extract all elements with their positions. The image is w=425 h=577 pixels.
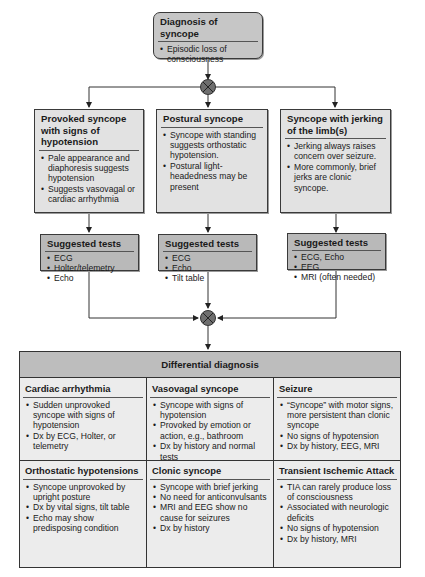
bullet-item: Dx by vital signs, tilt table: [26, 502, 142, 512]
bullet-item: ECG: [47, 253, 134, 263]
dx-cell-clonic-syncope: Clonic syncope Syncope with brief jerkin…: [147, 461, 273, 567]
bullet-item: Syncope with signs of hypotension: [153, 400, 269, 421]
box-title: Syncope with jerking of the limb(s): [281, 110, 390, 138]
box-title: Postural syncope: [157, 110, 267, 127]
cell-title: Transient Ischemic Attack: [274, 461, 400, 479]
bullet-list: Syncope with brief jerking No need for a…: [147, 480, 273, 536]
bullet-item: Holter/telemetry: [47, 263, 134, 273]
bullet-list: Episodic loss of consciousness: [154, 42, 262, 67]
bullet-item: No need for anticonvulsants: [153, 492, 269, 502]
bullet-item: Sudden unprovoked syncope with signs of …: [26, 400, 142, 431]
bullet-item: Postural light-headedness may be present: [163, 161, 263, 192]
postural-syncope-box: Postural syncope Syncope with standing s…: [156, 109, 268, 213]
bullet-item: ECG: [165, 253, 252, 263]
bullet-item: Dx by history, EEG, MRI: [280, 441, 396, 451]
bullet-item: ECG, Echo: [294, 252, 381, 262]
diagnosis-of-syncope-box: Diagnosis of syncope Episodic loss of co…: [153, 12, 263, 59]
bullet-list: Syncope unprovoked by upright posture Dx…: [20, 480, 146, 536]
bullet-list: TIA can rarely produce loss of conscious…: [274, 480, 400, 546]
cell-title: Seizure: [274, 379, 400, 397]
bullet-item: EEG: [294, 262, 381, 272]
box-title: Diagnosis of syncope: [154, 13, 262, 41]
box-title: Provoked syncope with signs of hypotensi…: [35, 110, 143, 150]
differential-diagnosis-panel: Differential diagnosis Cardiac arrhythmi…: [19, 351, 401, 568]
bullet-list: “Syncope” with motor signs, more persist…: [274, 398, 400, 454]
syncope-with-jerking-box: Syncope with jerking of the limb(s) Jerk…: [280, 109, 391, 213]
bullet-item: Tilt table: [165, 273, 252, 283]
dx-cell-orthostatic-hypotensions: Orthostatic hypotensions Syncope unprovo…: [20, 461, 146, 567]
cell-title: Cardiac arrhythmia: [20, 379, 146, 397]
suggested-tests-box-1: Suggested tests ECG Holter/telemetry Ech…: [40, 234, 139, 271]
bullet-item: TIA can rarely produce loss of conscious…: [280, 482, 396, 503]
bullet-item: Syncope unprovoked by upright posture: [26, 482, 142, 503]
junction-circle-icon: [200, 310, 216, 326]
bullet-item: Associated with neurologic deficits: [280, 502, 396, 523]
cell-title: Clonic syncope: [147, 461, 273, 479]
dx-cell-vasovagal-syncope: Vasovagal syncope Syncope with signs of …: [147, 379, 273, 460]
bullet-list: Pale appearance and diaphoresis suggests…: [35, 151, 143, 207]
bullet-item: Episodic loss of consciousness: [160, 44, 258, 65]
bullet-list: ECG Echo Tilt table: [159, 252, 256, 286]
bullet-item: Pale appearance and diaphoresis suggests…: [41, 153, 139, 184]
bullet-item: No signs of hypotension: [280, 431, 396, 441]
bullet-item: More commonly, brief jerks are clonic sy…: [287, 162, 386, 193]
bullet-list: Sudden unprovoked syncope with signs of …: [20, 398, 146, 454]
bullet-list: Jerking always raises concern over seizu…: [281, 139, 390, 195]
box-title: Suggested tests: [159, 235, 256, 251]
cell-title: Vasovagal syncope: [147, 379, 273, 397]
bullet-item: No signs of hypotension: [280, 523, 396, 533]
bullet-item: Dx by history and normal tests: [153, 441, 269, 462]
differential-title: Differential diagnosis: [161, 359, 259, 370]
suggested-tests-box-3: Suggested tests ECG, Echo EEG MRI (often…: [287, 233, 386, 270]
bullet-item: Jerking always raises concern over seizu…: [287, 141, 386, 162]
bullet-item: Dx by history: [153, 523, 269, 533]
box-title: Suggested tests: [41, 235, 138, 251]
dx-cell-transient-ischemic-attack: Transient Ischemic Attack TIA can rarely…: [274, 461, 400, 567]
bullet-item: Provoked by emotion or action, e.g., bat…: [153, 420, 269, 441]
bullet-item: Dx by ECG, Holter, or telemetry: [26, 431, 142, 452]
bullet-list: Syncope with signs of hypotension Provok…: [147, 398, 273, 464]
box-title: Suggested tests: [288, 234, 385, 250]
bullet-list: ECG, Echo EEG MRI (often needed): [288, 251, 385, 285]
junction-circle-icon: [200, 79, 216, 95]
bullet-list: Syncope with standing suggests orthostat…: [157, 128, 267, 194]
bullet-item: MRI and EEG show no cause for seizures: [153, 502, 269, 523]
bullet-item: Suggests vasovagal or cardiac arrhythmia: [41, 184, 139, 205]
bullet-item: MRI (often needed): [294, 272, 381, 282]
bullet-item: Syncope with brief jerking: [153, 482, 269, 492]
dx-cell-cardiac-arrhythmia: Cardiac arrhythmia Sudden unprovoked syn…: [20, 379, 146, 460]
bullet-list: ECG Holter/telemetry Echo: [41, 252, 138, 286]
cell-title: Orthostatic hypotensions: [20, 461, 146, 479]
differential-header: Differential diagnosis: [20, 352, 400, 378]
bullet-item: Echo: [165, 263, 252, 273]
bullet-item: “Syncope” with motor signs, more persist…: [280, 400, 396, 431]
dx-cell-seizure: Seizure “Syncope” with motor signs, more…: [274, 379, 400, 460]
suggested-tests-box-2: Suggested tests ECG Echo Tilt table: [158, 234, 257, 271]
bullet-item: Echo: [47, 273, 134, 283]
bullet-item: Echo may show predisposing condition: [26, 513, 142, 534]
bullet-item: Syncope with standing suggests orthostat…: [163, 130, 263, 161]
bullet-item: Dx by history, MRI: [280, 534, 396, 544]
provoked-syncope-box: Provoked syncope with signs of hypotensi…: [34, 109, 144, 213]
